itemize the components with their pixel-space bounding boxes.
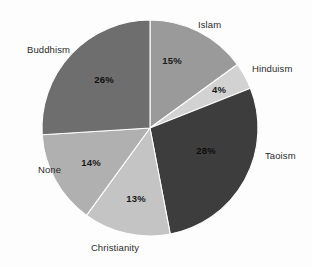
pie-category-label-christianity: Christianity — [91, 242, 139, 253]
pie-category-label-islam: Islam — [198, 19, 221, 30]
pie-category-label-none: None — [38, 164, 61, 175]
pie-category-label-buddhism: Buddhism — [27, 44, 70, 55]
pie-chart-figure: 15%4%28%13%14%26% IslamHinduismTaoismChr… — [0, 0, 312, 267]
pie-category-label-taoism: Taoism — [265, 150, 296, 161]
pie-category-label-hinduism: Hinduism — [252, 63, 292, 74]
pie-value-label-christianity: 13% — [126, 193, 146, 204]
pie-value-label-none: 14% — [81, 157, 101, 168]
pie-value-label-buddhism: 26% — [94, 74, 114, 85]
pie-chart-canvas: 15%4%28%13%14%26% IslamHinduismTaoismChr… — [0, 0, 312, 267]
pie-value-label-islam: 15% — [162, 55, 182, 66]
pie-value-label-hinduism: 4% — [212, 84, 226, 95]
pie-slice-group — [42, 20, 258, 236]
pie-value-label-taoism: 28% — [196, 145, 216, 156]
